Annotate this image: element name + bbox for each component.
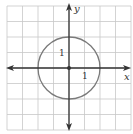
coordinate-plane: y x 1 1 xyxy=(0,0,133,134)
origin-point xyxy=(67,66,71,70)
y-tick-label: 1 xyxy=(59,48,65,58)
y-axis-label: y xyxy=(73,3,80,14)
x-tick-label: 1 xyxy=(82,71,88,81)
x-axis-label: x xyxy=(124,71,130,82)
